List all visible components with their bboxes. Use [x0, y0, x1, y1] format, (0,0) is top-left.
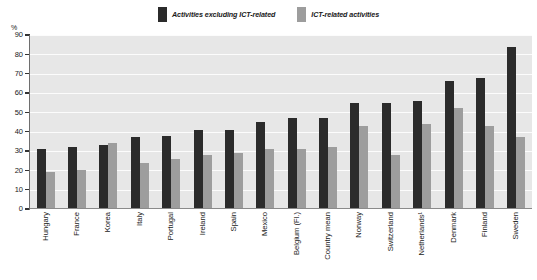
bar	[256, 122, 265, 209]
bar	[37, 149, 46, 209]
y-axis-tick: 40	[0, 127, 30, 137]
y-axis-tick: 20	[0, 165, 30, 175]
x-axis-label-cell: Country mean	[312, 210, 343, 280]
y-axis-tick-label: 30	[15, 147, 23, 155]
bar	[328, 147, 337, 209]
x-axis-labels: HungaryFranceKoreaItalyPortugalIrelandSp…	[30, 210, 532, 280]
bar-group	[281, 35, 312, 209]
bar	[359, 126, 368, 209]
x-axis-label: Finland	[481, 212, 489, 237]
bar-group	[156, 35, 187, 209]
x-axis-label-cell: Portugal	[156, 210, 187, 280]
x-axis-label: Mexico	[262, 212, 270, 236]
x-axis-label-cell: Spain	[218, 210, 249, 280]
bar	[319, 118, 328, 209]
x-axis-baseline	[30, 208, 532, 209]
y-axis-tick-label: 20	[15, 167, 23, 175]
x-axis-label: Netherlands¹	[418, 212, 426, 255]
y-axis-tick-label: 40	[15, 128, 23, 136]
bar	[99, 145, 108, 209]
y-axis-tick: 0	[0, 204, 30, 214]
bar	[350, 103, 359, 209]
bar	[297, 149, 306, 209]
x-axis-label-cell: Hungary	[30, 210, 61, 280]
bar	[382, 103, 391, 209]
bar	[391, 155, 400, 209]
x-axis-label-cell: Sweden	[501, 210, 532, 280]
x-axis-label-cell: Denmark	[438, 210, 469, 280]
x-axis-label: Portugal	[167, 212, 175, 240]
bar	[507, 47, 516, 209]
bar	[46, 172, 55, 209]
x-axis-label: Korea	[105, 212, 113, 232]
x-axis-label: Ireland	[199, 212, 207, 235]
bar-group	[187, 35, 218, 209]
x-axis-label: Italy	[136, 212, 144, 226]
bar	[413, 101, 422, 209]
bar-group	[438, 35, 469, 209]
legend-swatch-light-icon	[297, 7, 306, 22]
bar-group	[218, 35, 249, 209]
bar	[265, 149, 274, 209]
legend-swatch-dark-icon	[158, 7, 167, 22]
y-axis-tick: 30	[0, 146, 30, 156]
bar-group	[250, 35, 281, 209]
x-axis-label: Denmark	[450, 212, 458, 243]
x-axis-label-cell: Belgium (Fl.)	[281, 210, 312, 280]
bar	[234, 153, 243, 209]
x-axis-label-cell: Italy	[124, 210, 155, 280]
x-axis-label-cell: Ireland	[187, 210, 218, 280]
y-axis-tick: 70	[0, 69, 30, 79]
bar	[485, 126, 494, 209]
x-axis-label: Norway	[356, 212, 364, 238]
x-axis-label: Switzerland	[387, 212, 395, 251]
y-axis-tick: 60	[0, 88, 30, 98]
bar	[194, 130, 203, 209]
bar	[476, 78, 485, 209]
legend-label-activities-excluding-ict: Activities excluding ICT-related	[172, 10, 275, 19]
bar	[171, 159, 180, 209]
x-axis-label: Belgium (Fl.)	[293, 212, 301, 255]
x-axis-label-cell: Mexico	[250, 210, 281, 280]
x-axis-label-cell: France	[61, 210, 92, 280]
bar	[108, 143, 117, 209]
bar	[68, 147, 77, 209]
x-axis-label-cell: Switzerland	[375, 210, 406, 280]
bar-group	[344, 35, 375, 209]
x-axis-label: Sweden	[513, 212, 521, 239]
y-axis-tick-label: 10	[15, 186, 23, 194]
y-axis-tick: 10	[0, 185, 30, 195]
bar-group	[312, 35, 343, 209]
y-axis-tick-label: 70	[15, 70, 23, 78]
y-axis-tick: 80	[0, 49, 30, 59]
bar-group	[30, 35, 61, 209]
bar	[140, 163, 149, 209]
x-axis-label-cell: Netherlands¹	[407, 210, 438, 280]
bar	[162, 136, 171, 209]
x-axis-label-cell: Finland	[469, 210, 500, 280]
bar	[288, 118, 297, 209]
bar-group	[469, 35, 500, 209]
bar	[422, 124, 431, 209]
bar	[516, 137, 525, 209]
x-axis-label: France	[73, 212, 81, 236]
x-axis-label-cell: Norway	[344, 210, 375, 280]
bar-chart	[30, 35, 532, 209]
bar	[225, 130, 234, 209]
y-axis-tick: 50	[0, 107, 30, 117]
y-axis-tick-label: 50	[15, 109, 23, 117]
bar	[454, 108, 463, 209]
bar	[445, 81, 454, 209]
x-axis-label: Hungary	[42, 212, 50, 241]
x-axis-label: Spain	[230, 212, 238, 231]
y-axis-ticks: 9080706050403020100	[0, 0, 30, 280]
bar	[203, 155, 212, 209]
y-axis-tick: 90	[0, 30, 30, 40]
x-axis-label: Country mean	[324, 212, 332, 260]
bar-group	[375, 35, 406, 209]
bar-group	[407, 35, 438, 209]
y-axis-tick-label: 90	[15, 31, 23, 39]
y-axis-tick-label: 60	[15, 89, 23, 97]
legend-label-ict-related: ICT-related activities	[311, 10, 379, 19]
plot-area	[30, 35, 532, 209]
